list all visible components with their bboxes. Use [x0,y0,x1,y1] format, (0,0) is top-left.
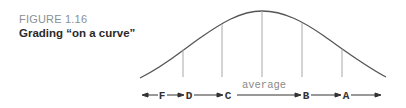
bell-curve-diagram: average F D C B A [0,0,406,108]
bell-curve [140,11,386,78]
arrowhead-right-icon [295,93,301,97]
grade-label-f: F [159,90,166,102]
arrowhead-right-icon [178,93,184,97]
arrowhead-right-icon [375,93,381,97]
grade-label-b: B [303,90,310,102]
grade-label-a: A [343,90,350,102]
arrowhead-right-icon [335,93,341,97]
grade-label-d: D [186,90,193,102]
average-label: average [242,79,286,91]
grade-label-c: C [225,90,232,102]
arrowhead-right-icon [217,93,223,97]
